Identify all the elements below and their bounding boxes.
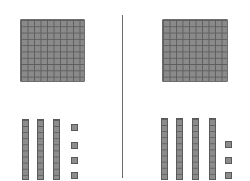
tens-rod	[192, 118, 199, 180]
unit-cube	[225, 141, 232, 148]
tens-rod	[161, 118, 168, 180]
unit-cube	[71, 124, 78, 131]
hundreds-flat	[162, 19, 228, 82]
tens-rod	[37, 119, 44, 180]
tens-rod	[53, 119, 60, 180]
tens-rod	[176, 118, 183, 180]
hundreds-flat	[20, 19, 85, 82]
unit-cube	[71, 142, 78, 149]
unit-cube	[71, 157, 78, 164]
divider-line	[122, 15, 123, 178]
unit-cube	[225, 172, 232, 179]
tens-rod	[209, 118, 216, 180]
unit-cube	[71, 172, 78, 179]
unit-cube	[225, 157, 232, 164]
tens-rod	[22, 119, 29, 180]
